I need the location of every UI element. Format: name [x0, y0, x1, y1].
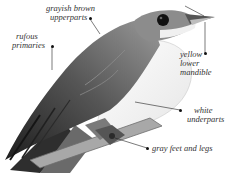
bird-illustration: grayish brown upperparts rufous primarie…: [0, 0, 227, 173]
pointer-dot-mandible: [204, 52, 207, 55]
label-upperparts: grayish brown upperparts: [46, 4, 95, 22]
pointer-dot-feet: [146, 147, 149, 150]
pointer-dot-underparts: [179, 109, 182, 112]
pointer-dot-primaries: [51, 45, 54, 48]
label-underparts: white underparts: [187, 106, 224, 124]
eye: [157, 14, 169, 26]
pointer-dot-upperparts: [89, 17, 92, 20]
label-primaries: rufous primaries: [12, 32, 45, 50]
label-feet: gray feet and legs: [152, 144, 213, 153]
